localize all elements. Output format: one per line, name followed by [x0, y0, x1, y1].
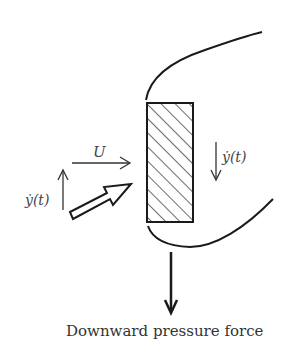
- diagram-canvas: U ẏ(t) ẏ(t) Downward pressure force: [0, 0, 291, 343]
- pressure-force-caption: Downward pressure force: [66, 322, 264, 340]
- pressure-force-arrow-icon: [165, 252, 177, 313]
- right-velocity-label: ẏ(t): [221, 149, 246, 165]
- flow-velocity-label: U: [93, 143, 107, 161]
- right-velocity-arrow-icon: [211, 142, 221, 180]
- relative-flow-hollow-arrow-icon: [70, 184, 131, 219]
- left-velocity-label: ẏ(t): [24, 192, 49, 208]
- left-velocity-arrow-icon: [58, 170, 68, 210]
- upper-streamline: [146, 32, 262, 100]
- hatched-body: [147, 103, 193, 222]
